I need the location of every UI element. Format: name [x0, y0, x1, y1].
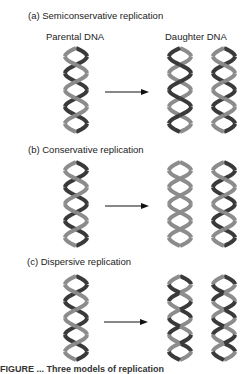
parental-helix — [62, 48, 90, 132]
strand-2-segment — [213, 318, 224, 326]
strand-2-segment — [65, 238, 76, 246]
strand-2-segment — [76, 212, 87, 220]
strand-1-segment — [224, 276, 235, 284]
strand-2-segment — [180, 187, 191, 195]
strand-2-segment — [213, 162, 224, 170]
strand-2-segment — [65, 196, 76, 204]
replication-arrow — [105, 88, 149, 96]
strand-2-segment — [169, 56, 180, 64]
strand-2-segment — [169, 124, 180, 132]
strand-2-segment — [76, 65, 87, 73]
arrow-head — [140, 319, 148, 325]
daughter-helix-2 — [210, 276, 238, 360]
strand-2-segment — [76, 73, 87, 81]
strand-2-segment — [213, 82, 224, 90]
strand-2-segment — [65, 318, 76, 326]
strand-2-segment — [76, 221, 87, 229]
strand-2-segment — [180, 221, 191, 229]
strand-2-segment — [76, 107, 87, 115]
strand-1-segment — [224, 124, 235, 132]
strand-2-segment — [180, 179, 191, 187]
strand-1-segment — [76, 238, 87, 246]
strand-2-segment — [180, 326, 191, 334]
daughter-helix-1 — [166, 162, 194, 246]
strand-2-segment — [169, 284, 180, 292]
strand-2-segment — [224, 65, 235, 73]
strand-1-segment — [76, 352, 87, 360]
strand-2-segment — [76, 335, 87, 343]
strand-2-segment — [169, 343, 180, 351]
strand-2-segment — [180, 98, 191, 106]
strand-2-segment — [65, 343, 76, 351]
strand-2-segment — [65, 170, 76, 178]
strand-1-segment — [224, 238, 235, 246]
strand-2-segment — [65, 115, 76, 123]
strand-2-segment — [76, 179, 87, 187]
strand-2-segment — [180, 212, 191, 220]
strand-2-segment — [213, 310, 224, 318]
strand-1-segment — [76, 276, 87, 284]
strand-2-segment — [224, 326, 235, 334]
strand-2-segment — [169, 115, 180, 123]
strand-2-segment — [180, 107, 191, 115]
strand-2-segment — [169, 318, 180, 326]
strand-2-segment — [169, 229, 180, 237]
strand-2-segment — [213, 204, 224, 212]
strand-1-segment — [224, 48, 235, 56]
strand-2-segment — [213, 284, 224, 292]
strand-2-segment — [76, 301, 87, 309]
strand-2-segment — [224, 301, 235, 309]
strand-2-segment — [224, 212, 235, 220]
strand-1-segment — [76, 162, 87, 170]
daughter-dna-label: Daughter DNA — [165, 31, 227, 42]
strand-2-segment — [65, 204, 76, 212]
strand-2-segment — [65, 352, 76, 360]
strand-2-segment — [180, 293, 191, 301]
daughter-helix-2 — [210, 162, 238, 246]
replication-arrow — [104, 318, 148, 326]
panel-b-title: (b) Conservative replication — [28, 144, 144, 155]
strand-1-segment — [76, 48, 87, 56]
parental-helix — [62, 162, 90, 246]
daughter-helix-2 — [210, 48, 238, 132]
strand-2-segment — [213, 170, 224, 178]
strand-2-segment — [169, 196, 180, 204]
strand-1-segment — [180, 124, 191, 132]
strand-2-segment — [224, 73, 235, 81]
parental-dna-label: Parental DNA — [46, 31, 104, 42]
strand-2-segment — [65, 90, 76, 98]
strand-2-segment — [213, 343, 224, 351]
strand-2-segment — [169, 352, 180, 360]
parental-helix — [62, 276, 90, 360]
strand-1-segment — [180, 352, 191, 360]
strand-1-segment — [180, 162, 191, 170]
strand-2-segment — [169, 48, 180, 56]
strand-2-segment — [213, 276, 224, 284]
strand-2-segment — [76, 326, 87, 334]
strand-2-segment — [76, 187, 87, 195]
strand-1-segment — [180, 48, 191, 56]
daughter-helix-1 — [166, 276, 194, 360]
strand-2-segment — [224, 187, 235, 195]
strand-2-segment — [169, 82, 180, 90]
strand-2-segment — [180, 73, 191, 81]
replication-arrow — [105, 202, 149, 210]
strand-2-segment — [169, 170, 180, 178]
strand-2-segment — [169, 90, 180, 98]
strand-2-segment — [65, 124, 76, 132]
strand-2-segment — [213, 48, 224, 56]
arrow-head — [141, 89, 149, 95]
strand-2-segment — [65, 56, 76, 64]
figure-caption: FIGURE ... Three models of replication — [0, 364, 164, 374]
arrow-head — [141, 203, 149, 209]
strand-2-segment — [224, 179, 235, 187]
strand-1-segment — [76, 124, 87, 132]
strand-2-segment — [65, 48, 76, 56]
strand-2-segment — [224, 221, 235, 229]
strand-2-segment — [169, 310, 180, 318]
strand-2-segment — [76, 98, 87, 106]
strand-2-segment — [169, 162, 180, 170]
strand-1-segment — [180, 276, 191, 284]
strand-2-segment — [224, 107, 235, 115]
strand-2-segment — [213, 115, 224, 123]
